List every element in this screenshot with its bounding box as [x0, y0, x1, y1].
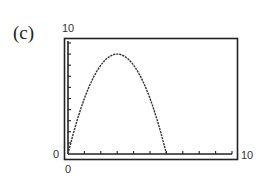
- calculator-screen: [0, 0, 261, 180]
- window-frame: [65, 39, 238, 160]
- parabola-curve: [68, 54, 166, 154]
